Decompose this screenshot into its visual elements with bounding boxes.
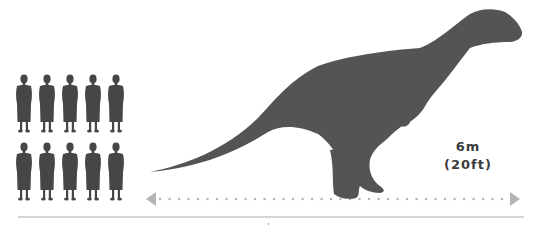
dinosaur-silhouette [0,0,545,225]
measurement-arrow [146,192,520,206]
center-tick [268,223,269,225]
arrow-left-head-icon [146,192,156,206]
measurement-metric: 6m [428,138,508,156]
arrow-right-head-icon [510,192,520,206]
measurement-imperial: (20ft) [428,156,508,174]
ground-line [18,216,524,218]
measurement-label: 6m (20ft) [428,138,508,174]
